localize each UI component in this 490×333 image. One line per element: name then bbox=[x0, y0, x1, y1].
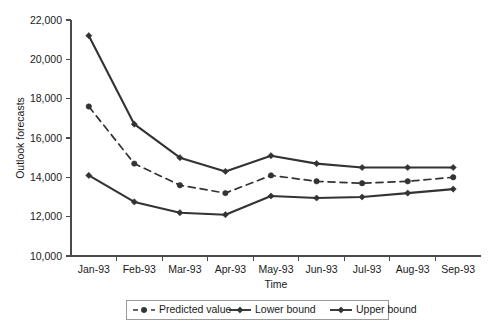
data-point bbox=[359, 194, 365, 200]
data-point bbox=[450, 186, 456, 192]
legend-label: Lower bound bbox=[255, 303, 316, 315]
chart-container: Outlook forecasts 10,00012,00014,00016,0… bbox=[0, 0, 490, 333]
data-point bbox=[451, 175, 456, 180]
y-tick-label: 18,000 bbox=[30, 92, 62, 104]
x-axis-ticks: Jan-93Feb-93Mar-93Apr-93May-93Jun-93Jul-… bbox=[78, 256, 476, 275]
x-tick-label: Jun-93 bbox=[306, 263, 338, 275]
data-point bbox=[359, 181, 364, 186]
y-tick-label: 12,000 bbox=[30, 210, 62, 222]
y-tick-label: 20,000 bbox=[30, 53, 62, 65]
data-point bbox=[222, 212, 228, 218]
series-line-predicted-value bbox=[89, 107, 453, 194]
x-tick-label: Sep-93 bbox=[441, 263, 475, 275]
data-point bbox=[314, 195, 320, 201]
data-point bbox=[405, 190, 411, 196]
series-layer bbox=[86, 33, 457, 218]
data-point bbox=[177, 210, 183, 216]
data-point bbox=[405, 164, 411, 170]
x-tick-label: Feb-93 bbox=[123, 263, 156, 275]
x-axis-title: Time bbox=[265, 278, 288, 290]
legend-label: Predicted value bbox=[159, 303, 232, 315]
data-point bbox=[177, 183, 182, 188]
y-tick-label: 14,000 bbox=[30, 171, 62, 183]
data-point bbox=[450, 164, 456, 170]
y-tick-label: 16,000 bbox=[30, 132, 62, 144]
data-point bbox=[359, 164, 365, 170]
x-tick-label: Mar-93 bbox=[168, 263, 201, 275]
chart-legend: Predicted valueLower boundUpper bound bbox=[126, 301, 417, 320]
data-point bbox=[132, 161, 137, 166]
series-line-upper-bound bbox=[89, 36, 453, 172]
data-point bbox=[222, 168, 228, 174]
x-tick-label: Jan-93 bbox=[78, 263, 110, 275]
y-axis-ticks: 10,00012,00014,00016,00018,00020,00022,0… bbox=[30, 14, 71, 262]
data-point bbox=[314, 161, 320, 167]
y-tick-label: 10,000 bbox=[30, 250, 62, 262]
y-axis-title: Outlook forecasts bbox=[14, 97, 26, 179]
data-point bbox=[268, 173, 273, 178]
x-tick-label: Aug-93 bbox=[396, 263, 430, 275]
data-point bbox=[314, 179, 319, 184]
data-point bbox=[86, 104, 91, 109]
x-tick-label: Apr-93 bbox=[215, 263, 247, 275]
line-chart: Outlook forecasts 10,00012,00014,00016,0… bbox=[0, 0, 490, 333]
data-point bbox=[223, 190, 228, 195]
data-point bbox=[268, 193, 274, 199]
x-tick-label: Jul-93 bbox=[353, 263, 382, 275]
legend-label: Upper bound bbox=[356, 303, 417, 315]
legend-marker bbox=[141, 307, 146, 312]
x-tick-label: May-93 bbox=[258, 263, 293, 275]
data-point bbox=[405, 179, 410, 184]
data-point bbox=[268, 153, 274, 159]
y-tick-label: 22,000 bbox=[30, 14, 62, 26]
